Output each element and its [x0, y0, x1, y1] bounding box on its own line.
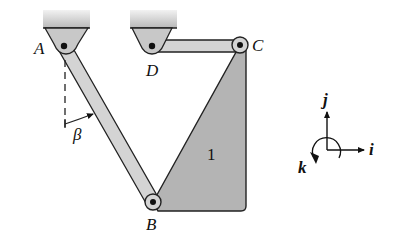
bar-ab — [58, 43, 159, 205]
pin-b — [145, 194, 161, 210]
axis-j-label: j — [320, 90, 328, 109]
coordinate-axes-icon: j i k — [298, 90, 374, 177]
label-a: A — [33, 39, 45, 58]
label-c: C — [252, 36, 264, 55]
label-beta: β — [72, 125, 82, 144]
label-body-1: 1 — [207, 145, 216, 164]
pin-a-icon — [61, 43, 67, 49]
label-d: D — [145, 61, 159, 80]
axis-i-label: i — [369, 140, 374, 159]
axis-k-label: k — [298, 158, 307, 177]
linkage-diagram: A D C B β 1 j i k — [0, 0, 396, 242]
pin-c — [232, 37, 248, 53]
plate-1 — [153, 45, 246, 211]
ground-support-a — [43, 10, 90, 54]
label-b: B — [146, 215, 157, 234]
pin-d-icon — [149, 43, 155, 49]
